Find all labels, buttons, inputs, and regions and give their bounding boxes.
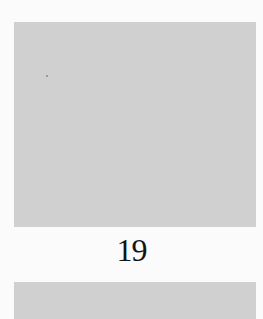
image-placeholder-bottom: [14, 282, 256, 319]
image-placeholder-top: [14, 22, 256, 227]
image-speck: [46, 75, 48, 77]
page-number: 19: [0, 232, 263, 268]
